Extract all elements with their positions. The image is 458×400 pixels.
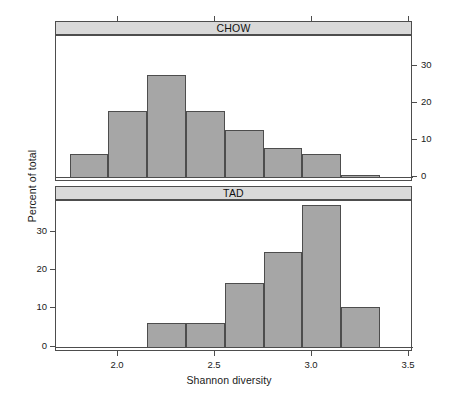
histogram-bar (147, 323, 186, 348)
x-tick-label: 2.0 (97, 359, 137, 370)
histogram-bar (186, 323, 225, 348)
x-tick-top (408, 16, 409, 21)
x-tick-bottom (117, 351, 118, 356)
histogram-bar (147, 75, 186, 178)
y-tick-chow (412, 139, 417, 140)
histogram-bar (264, 252, 303, 348)
figure-canvas: CHOW 0102030 TAD 0102030 2.02.53.03.5 Pe… (0, 0, 458, 400)
histogram-bar (225, 130, 264, 177)
y-tick-tad (50, 269, 55, 270)
y-tick-tad (50, 231, 55, 232)
x-tick-bottom (214, 351, 215, 356)
y-tick-label-tad: 0 (23, 340, 47, 351)
y-tick-label-chow: 20 (421, 96, 432, 107)
y-tick-chow (412, 65, 417, 66)
histogram-bar (186, 111, 225, 178)
panel-strip-chow: CHOW (55, 21, 412, 35)
panel-tad (55, 200, 412, 351)
y-tick-tad (50, 307, 55, 308)
y-tick-tad (50, 346, 55, 347)
y-tick-label-chow: 0 (421, 170, 426, 181)
x-tick-top (117, 16, 118, 21)
panel-strip-tad-label: TAD (223, 187, 244, 199)
x-tick-label: 3.0 (291, 359, 331, 370)
histogram-bar (302, 205, 341, 347)
x-tick-top (311, 16, 312, 21)
x-tick-bottom (408, 351, 409, 356)
plot-area-tad (56, 201, 411, 350)
panel-strip-tad: TAD (55, 186, 412, 200)
histogram-bar (225, 283, 264, 348)
panel-strip-chow-label: CHOW (216, 22, 250, 34)
histogram-bar (70, 154, 109, 178)
plot-area-chow (56, 36, 411, 180)
panel-chow (55, 35, 412, 181)
y-tick-chow (412, 176, 417, 177)
histogram-bar (108, 111, 147, 178)
histogram-bar (341, 307, 380, 348)
y-tick-label-chow: 10 (421, 133, 432, 144)
x-tick-label: 3.5 (388, 359, 428, 370)
histogram-bar (264, 148, 303, 178)
x-axis-title: Shannon diversity (0, 374, 458, 386)
y-tick-chow (412, 102, 417, 103)
histogram-bar (302, 154, 341, 178)
histogram-bar (341, 175, 380, 178)
x-tick-bottom (311, 351, 312, 356)
x-tick-label: 2.5 (194, 359, 234, 370)
y-tick-label-chow: 30 (421, 59, 432, 70)
x-tick-top (214, 16, 215, 21)
y-axis-title: Percent of total (26, 106, 38, 266)
y-tick-label-tad: 10 (23, 301, 47, 312)
